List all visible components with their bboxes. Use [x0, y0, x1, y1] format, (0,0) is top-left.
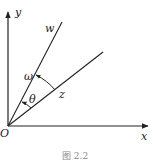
figure-caption: 图 2.2 [62, 151, 88, 160]
vector-diagram: y x O w z ω θ 图 2.2 [0, 0, 153, 160]
vector-z-label: z [58, 88, 65, 101]
vector-z-line [8, 52, 103, 126]
origin-label: O [0, 127, 9, 140]
y-axis-label: y [14, 6, 22, 19]
x-axis-label: x [141, 130, 148, 143]
vector-w-label: w [45, 22, 55, 35]
omega-arc [36, 75, 55, 90]
vector-w-line [8, 22, 62, 126]
angle-theta-label: θ [29, 93, 36, 106]
angle-omega-label: ω [24, 70, 33, 83]
